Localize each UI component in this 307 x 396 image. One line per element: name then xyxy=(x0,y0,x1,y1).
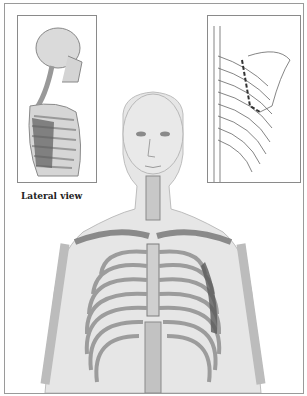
lateral-view-inset xyxy=(17,15,97,183)
figure-frame: Lateral view xyxy=(4,3,304,394)
lateral-view-caption: Lateral view xyxy=(21,191,82,201)
posterior-view-inset xyxy=(207,15,301,183)
